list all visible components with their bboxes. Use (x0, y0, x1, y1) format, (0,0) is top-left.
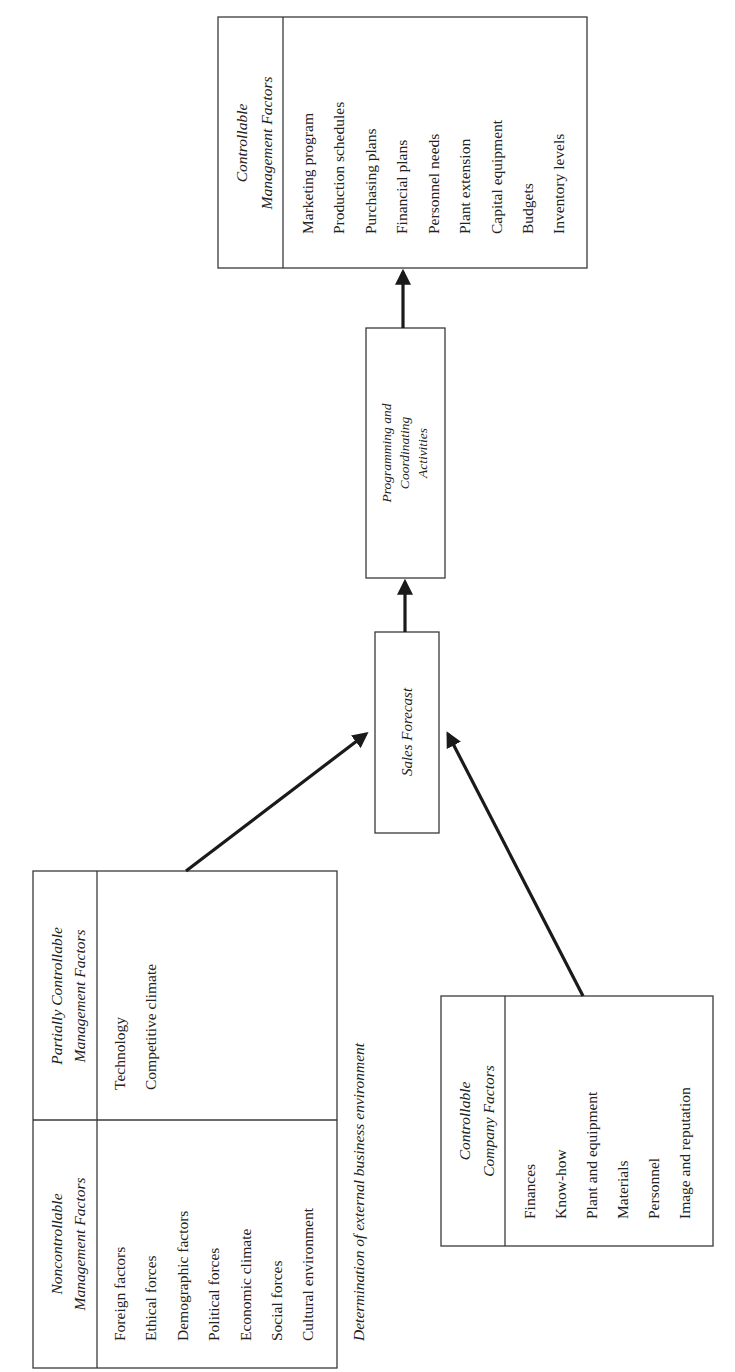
svg-text:Noncontrollable: Noncontrollable (48, 1193, 65, 1295)
company-factors-box: Controllable Company Factors Finances Kn… (441, 996, 713, 1246)
external-environment-box: Noncontrollable Management Factors Forei… (33, 871, 337, 1368)
sales-forecast-label: Sales Forecast (399, 687, 415, 776)
list-item: Competitive climate (142, 964, 159, 1090)
list-item: Plant extension (456, 139, 473, 234)
list-item: Financial plans (393, 140, 410, 234)
list-item: Technology (111, 1017, 128, 1090)
svg-text:Management Factors: Management Factors (71, 1177, 88, 1311)
sales-forecast-diagram: Noncontrollable Management Factors Forei… (0, 0, 735, 1372)
svg-text:Management Factors: Management Factors (71, 929, 88, 1063)
list-item: Purchasing plans (362, 129, 379, 234)
svg-text:Activities: Activities (415, 428, 430, 479)
list-item: Plant and equipment (583, 1091, 600, 1219)
list-item: Political forces (205, 1248, 222, 1341)
list-item: Capital equipment (488, 119, 505, 234)
svg-text:Programming and: Programming and (379, 403, 394, 503)
svg-text:Partially Controllable: Partially Controllable (48, 927, 65, 1066)
list-item: Materials (614, 1160, 631, 1219)
list-item: Budgets (519, 183, 536, 234)
list-item: Marketing program (299, 113, 316, 234)
list-item: Demographic factors (174, 1211, 191, 1341)
arrow-company-to-forecast (448, 734, 583, 996)
controllable-management-factors-box: Controllable Management Factors Marketin… (218, 17, 587, 268)
list-item: Economic climate (237, 1229, 254, 1341)
list-item: Personnel needs (425, 134, 442, 234)
svg-text:Management Factors: Management Factors (258, 76, 275, 210)
svg-text:Controllable: Controllable (233, 104, 250, 183)
list-item: Inventory levels (550, 134, 567, 234)
environment-caption: Determination of external business envir… (350, 1042, 367, 1342)
list-item: Ethical forces (142, 1255, 159, 1341)
arrow-environment-to-forecast (186, 734, 366, 871)
list-item: Production schedules (330, 102, 347, 234)
svg-text:Company Factors: Company Factors (480, 1065, 497, 1177)
svg-text:Coordinating: Coordinating (397, 417, 412, 490)
list-item: Know-how (552, 1148, 569, 1219)
list-item: Cultural environment (299, 1207, 316, 1341)
svg-text:Controllable: Controllable (456, 1082, 473, 1161)
list-item: Personnel (645, 1158, 662, 1219)
list-item: Social forces (268, 1261, 285, 1341)
list-item: Finances (521, 1164, 538, 1219)
sales-forecast-box: Sales Forecast (375, 632, 439, 833)
programming-activities-box: Programming and Coordinating Activities (366, 328, 445, 578)
list-item: Image and reputation (676, 1087, 693, 1219)
list-item: Foreign factors (111, 1247, 128, 1341)
